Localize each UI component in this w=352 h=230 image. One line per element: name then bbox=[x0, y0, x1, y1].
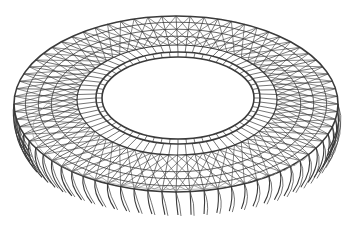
facade-column bbox=[190, 192, 191, 215]
ring-rung bbox=[209, 56, 211, 61]
lattice-member bbox=[20, 127, 91, 128]
roof-beam bbox=[225, 136, 269, 176]
stadium-wireframe-drawing bbox=[0, 0, 352, 230]
ring-rung bbox=[96, 93, 102, 94]
lattice-member bbox=[43, 119, 83, 155]
roof-beam bbox=[176, 144, 178, 192]
ring-rung bbox=[216, 134, 219, 138]
ring-rung bbox=[100, 111, 106, 113]
lattice-member bbox=[43, 54, 83, 82]
lattice-member bbox=[148, 17, 186, 45]
ring-rung bbox=[209, 135, 211, 140]
ring-rung bbox=[252, 107, 258, 108]
ring-rung bbox=[247, 79, 252, 81]
roof-beam bbox=[162, 16, 171, 52]
lattice-member bbox=[277, 105, 329, 134]
ring-rung bbox=[112, 122, 117, 125]
lattice-member bbox=[120, 145, 121, 187]
ring-rung bbox=[137, 58, 140, 62]
lattice-member bbox=[231, 21, 234, 55]
facade-column bbox=[217, 189, 219, 213]
ring-rung bbox=[130, 61, 134, 65]
roof-beam bbox=[176, 16, 178, 52]
facade-column bbox=[229, 187, 232, 211]
ring-rung bbox=[112, 71, 117, 74]
lattice-member bbox=[95, 153, 151, 180]
ring-rung bbox=[117, 125, 121, 128]
stadium-figure bbox=[0, 0, 352, 230]
roof-beam bbox=[162, 144, 171, 192]
ring-rung bbox=[107, 75, 112, 78]
lattice-member bbox=[121, 155, 169, 187]
lattice-member bbox=[61, 42, 127, 53]
ring-rung bbox=[229, 128, 233, 132]
ring-rung bbox=[98, 88, 104, 89]
ring-rung bbox=[234, 125, 238, 128]
lattice-member bbox=[108, 24, 113, 58]
lattice-member bbox=[264, 127, 333, 128]
ring-rung bbox=[216, 58, 219, 62]
ring-rung bbox=[103, 79, 108, 81]
lattice-member bbox=[241, 24, 244, 58]
facade-column bbox=[241, 184, 245, 209]
ring-rung bbox=[239, 71, 244, 74]
lattice-member bbox=[227, 42, 291, 53]
facade-column bbox=[204, 191, 205, 214]
ring-rung bbox=[239, 122, 244, 125]
lattice-member bbox=[248, 139, 257, 180]
ring-rung bbox=[123, 64, 127, 68]
roof-beam bbox=[83, 136, 131, 176]
roof-beam bbox=[15, 94, 97, 96]
lattice-member bbox=[190, 16, 211, 48]
lattice-member bbox=[143, 16, 162, 48]
facade-column-pair bbox=[311, 148, 319, 184]
roof-beam bbox=[134, 142, 157, 189]
ring-rung bbox=[229, 64, 233, 68]
ring-rung bbox=[96, 102, 102, 103]
roof-beam bbox=[16, 89, 97, 90]
lattice-member bbox=[120, 21, 121, 55]
ring-rung bbox=[137, 134, 140, 138]
ring-rung bbox=[247, 115, 252, 117]
ring-rung bbox=[223, 131, 227, 135]
roof-beam bbox=[185, 144, 190, 192]
roof-beam bbox=[36, 121, 107, 148]
ring-rung bbox=[117, 67, 121, 70]
ring-rung bbox=[145, 56, 147, 61]
ring-rung bbox=[107, 119, 112, 122]
ring-rung bbox=[252, 88, 258, 89]
lattice-member bbox=[204, 17, 219, 50]
ring-rung bbox=[254, 102, 260, 103]
facade-column-pair bbox=[304, 154, 312, 188]
ring-rung bbox=[145, 135, 147, 140]
lattice-member bbox=[211, 152, 269, 176]
roof-beam bbox=[231, 133, 280, 171]
lattice-member bbox=[259, 37, 280, 69]
ring-rung bbox=[244, 75, 249, 78]
ring-rung bbox=[103, 115, 108, 117]
ring-rung bbox=[254, 93, 260, 94]
lattice-member bbox=[29, 110, 78, 142]
ring-rung bbox=[250, 111, 256, 113]
ring-rung bbox=[98, 107, 104, 108]
lattice-member bbox=[20, 100, 77, 127]
facade-column-pair bbox=[326, 127, 336, 168]
ring-rung bbox=[100, 84, 106, 86]
lattice-member bbox=[52, 47, 120, 55]
facade-column bbox=[162, 192, 165, 215]
ring-rung bbox=[250, 84, 256, 86]
ring-rung bbox=[130, 131, 134, 135]
roof-beam bbox=[185, 16, 190, 52]
facade-column bbox=[264, 176, 270, 203]
inner-opening bbox=[102, 57, 254, 139]
ring-rung bbox=[123, 128, 127, 132]
lattice-member bbox=[24, 105, 78, 134]
roof-beam bbox=[249, 121, 316, 148]
roof-beam bbox=[72, 37, 125, 63]
ring-rung bbox=[234, 67, 238, 70]
roof-beam bbox=[257, 81, 332, 86]
ring-rung bbox=[223, 61, 227, 65]
facade-column bbox=[253, 180, 258, 206]
ring-rung bbox=[244, 119, 249, 122]
lattice-member bbox=[241, 54, 308, 58]
